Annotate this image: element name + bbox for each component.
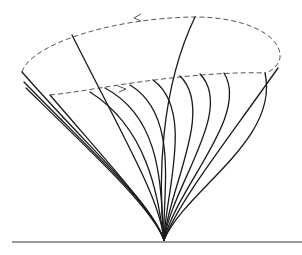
diagram-canvas: [0, 0, 302, 255]
trajectory-curves: [22, 17, 278, 240]
trajectory-curve: [22, 72, 164, 240]
arrow-left-icon: [134, 14, 141, 21]
trajectory-curve: [164, 74, 211, 240]
outer-rim-dashed: [22, 17, 280, 73]
trajectory-funnel-diagram: [0, 0, 302, 255]
arrow-right-icon: [118, 86, 126, 92]
trajectory-curve: [26, 88, 164, 240]
trajectory-curve: [72, 35, 164, 240]
